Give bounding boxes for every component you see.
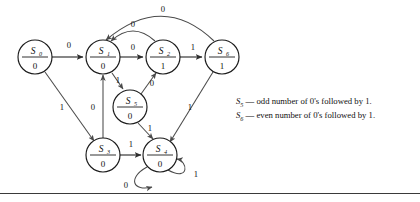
legend-line-s6: S6 — even number of 0's followed by 1. (236, 110, 416, 124)
legend: S5 — odd number of 0's followed by 1. S6… (236, 96, 416, 124)
state-node-s1: S 1 0 (86, 40, 120, 74)
legend-line-s5: S5 — odd number of 0's followed by 1. (236, 96, 416, 110)
state-output-s4: 0 (158, 159, 163, 169)
edge-label-s5-s2: 0 (150, 78, 154, 88)
state-output-s5: 0 (128, 111, 133, 121)
edge-label-s0-s1: 0 (67, 40, 71, 50)
state-output-s1: 0 (101, 61, 106, 71)
state-node-s4: S 4 0 (143, 138, 177, 172)
state-label-s3: S (99, 144, 104, 154)
state-label-s0: S (31, 46, 36, 56)
legend-dash-s6: — (246, 110, 255, 120)
state-label-s5: S (126, 96, 131, 106)
edge-label-s1-s2: 0 (131, 42, 135, 52)
edge-label-s3-s1: 0 (91, 102, 95, 112)
legend-state-s6: S6 (236, 110, 243, 120)
edge-s4-self-0 (135, 167, 152, 188)
edge-label-s4-self-0: 0 (124, 180, 128, 190)
state-label-s1: S (99, 46, 104, 56)
legend-text-s5: odd number of 0's followed by 1. (256, 96, 371, 106)
state-node-s6: S 6 1 (205, 40, 239, 74)
state-output-s3: 0 (101, 159, 106, 169)
state-node-s0: S 0 0 (18, 40, 52, 74)
state-subscript-s4: 4 (164, 148, 167, 155)
state-label-s4: S (156, 144, 161, 154)
edge-label-s1-s5: 1 (116, 75, 120, 85)
state-subscript-s5: 5 (134, 100, 137, 107)
edge-label-s6-s1: 0 (161, 4, 165, 14)
edge-label-s2-s6: 1 (191, 42, 195, 52)
legend-text-s6: even number of 0's followed by 1. (256, 110, 375, 120)
state-node-s2: S 2 1 (146, 40, 180, 74)
state-output-s6: 1 (220, 61, 225, 71)
edge-s0-s3 (45, 72, 94, 141)
edge-label-s4-self-1: 1 (194, 169, 198, 179)
edge-s6-s1 (106, 16, 214, 41)
edge-label-s3-s4: 1 (129, 139, 133, 149)
state-output-s0: 0 (33, 61, 38, 71)
state-label-s6: S (218, 46, 223, 56)
edge-label-s2-s1: 0 (131, 19, 135, 29)
state-output-s2: 1 (161, 61, 166, 71)
edge-s2-s1 (111, 31, 155, 41)
bottom-rule (0, 193, 420, 194)
edge-label-s6-s4: 1 (188, 102, 192, 112)
legend-state-subscript-s5: 5 (240, 101, 243, 108)
edge-label-s5-s4: 1 (148, 123, 152, 133)
state-subscript-s3: 3 (106, 148, 110, 155)
state-subscript-s2: 2 (167, 50, 170, 57)
legend-dash-s5: — (246, 96, 255, 106)
legend-state-s5: S5 (236, 96, 243, 106)
legend-state-subscript-s6: 6 (240, 115, 243, 122)
state-diagram-figure: S 0 0 S 1 0 S 2 1 S 6 1 (0, 0, 420, 202)
state-node-s5: S 5 0 (113, 90, 147, 124)
edge-label-s0-s3: 1 (60, 102, 64, 112)
state-subscript-s1: 1 (107, 50, 110, 57)
state-label-s2: S (159, 46, 164, 56)
state-node-s3: S 3 0 (86, 138, 120, 172)
